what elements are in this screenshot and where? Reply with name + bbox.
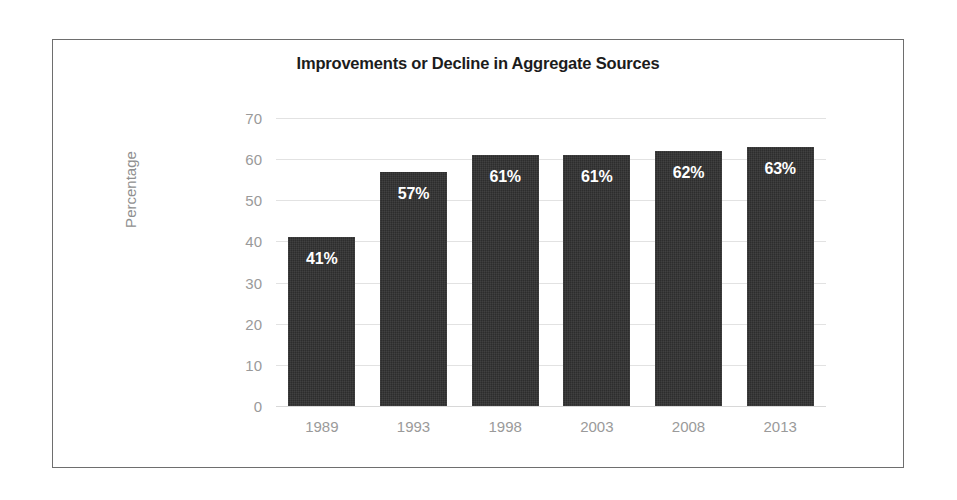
bar-value-label: 41%: [288, 250, 355, 268]
bar-group[interactable]: 41%1989: [288, 118, 355, 406]
bar[interactable]: 41%: [288, 237, 355, 406]
y-axis-title: Percentage: [122, 110, 139, 270]
x-axis-tick-label: 1998: [460, 418, 551, 435]
bar-value-label: 62%: [655, 164, 722, 182]
y-axis-tick-label: 10: [245, 356, 262, 373]
bar-value-label: 57%: [380, 185, 447, 203]
bar[interactable]: 61%: [563, 155, 630, 406]
bar-group[interactable]: 62%2008: [655, 118, 722, 406]
bar[interactable]: 62%: [655, 151, 722, 406]
bar-value-label: 63%: [747, 160, 814, 178]
x-axis-tick-label: 2013: [735, 418, 826, 435]
bar-group[interactable]: 61%2003: [563, 118, 630, 406]
bar-group[interactable]: 63%2013: [747, 118, 814, 406]
gridline: [276, 406, 826, 407]
bar-group[interactable]: 61%1998: [472, 118, 539, 406]
y-axis-tick-label: 30: [245, 274, 262, 291]
bar-value-label: 61%: [472, 168, 539, 186]
x-axis-tick-label: 1993: [368, 418, 459, 435]
bar-value-label: 61%: [563, 168, 630, 186]
bar[interactable]: 61%: [472, 155, 539, 406]
bar-group[interactable]: 57%1993: [380, 118, 447, 406]
x-axis-tick-label: 2008: [643, 418, 734, 435]
y-axis-tick-label: 70: [245, 110, 262, 127]
y-axis-tick-label: 50: [245, 192, 262, 209]
bar-series: 41%198957%199361%199861%200362%200863%20…: [276, 118, 826, 406]
x-axis-tick-label: 2003: [551, 418, 642, 435]
y-axis-tick-label: 20: [245, 315, 262, 332]
bar[interactable]: 63%: [747, 147, 814, 406]
chart-title: Improvements or Decline in Aggregate Sou…: [228, 54, 728, 73]
y-axis-tick-label: 0: [254, 398, 262, 415]
x-axis-tick-label: 1989: [276, 418, 367, 435]
plot-area: 010203040506070 41%198957%199361%199861%…: [276, 118, 826, 406]
chart-frame: Improvements or Decline in Aggregate Sou…: [52, 39, 904, 468]
y-axis-tick-label: 40: [245, 233, 262, 250]
y-axis-tick-label: 60: [245, 151, 262, 168]
bar[interactable]: 57%: [380, 172, 447, 407]
